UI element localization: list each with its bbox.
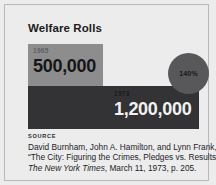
page-title: Welfare Rolls [28,22,102,34]
percent-increase-label: 140% [179,70,198,77]
bar-1973-value-label: 1,200,000 [114,99,191,120]
bar-1965: 1965 500,000 [28,44,103,87]
bar-1965-year-label: 1965 [33,47,49,54]
source-heading: SOURCE [28,133,206,139]
source-publication-details: , March 11, 1973, p. 205. [105,163,197,173]
bar-1973-year-label: 1973 [114,90,130,97]
source-block: SOURCE David Burnham, John A. Hamilton, … [28,133,206,173]
welfare-rolls-figure: Welfare Rolls 1965 500,000 1973 1,200,00… [0,0,216,185]
figure-frame: Welfare Rolls 1965 500,000 1973 1,200,00… [4,4,209,181]
source-publication-name: The New York Times [28,163,105,173]
source-line-1: David Burnham, John A. Hamilton, and Lyn… [28,142,206,152]
bar-1973: 1973 1,200,000 [28,86,199,129]
percent-increase-badge: 140% [168,53,209,94]
source-line-2: “The City: Figuring the Crimes, Pledges … [28,152,206,162]
source-line-3: The New York Times, March 11, 1973, p. 2… [28,163,206,173]
bar-1965-value-label: 500,000 [33,56,96,77]
